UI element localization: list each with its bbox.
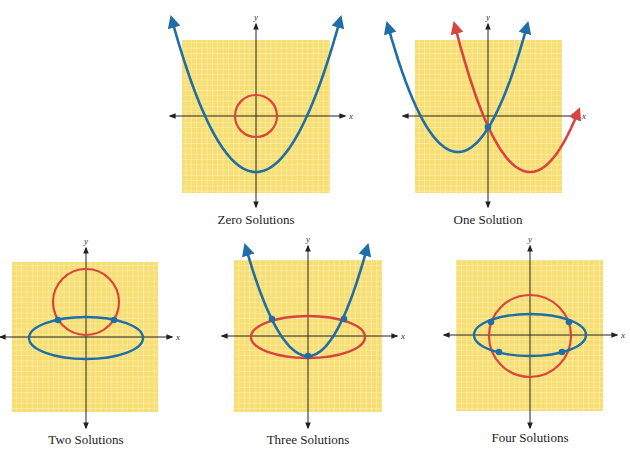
intersection-point bbox=[488, 319, 495, 326]
x-axis-label: x bbox=[581, 111, 586, 121]
intersection-point bbox=[566, 319, 573, 326]
x-axis-label: x bbox=[348, 111, 353, 121]
x-axis-label: x bbox=[400, 331, 405, 341]
panel-four-solutions: xy bbox=[444, 234, 625, 428]
intersection-point bbox=[496, 349, 503, 356]
y-axis-label: y bbox=[305, 234, 310, 244]
caption-one-solution: One Solution bbox=[454, 212, 523, 228]
panel-zero-solutions: xy bbox=[170, 12, 353, 207]
intersection-point bbox=[269, 316, 276, 323]
caption-three-solutions: Three Solutions bbox=[267, 432, 350, 448]
y-axis-label: y bbox=[485, 12, 490, 22]
y-axis-label: y bbox=[527, 234, 532, 244]
caption-four-solutions: Four Solutions bbox=[492, 430, 569, 446]
intersection-point bbox=[305, 353, 312, 360]
y-axis-label: y bbox=[83, 236, 88, 246]
panel-two-solutions: xy bbox=[0, 236, 180, 428]
intersection-point bbox=[341, 316, 348, 323]
x-axis-label: x bbox=[620, 330, 625, 340]
intersection-point bbox=[55, 317, 62, 324]
caption-zero-solutions: Zero Solutions bbox=[218, 212, 295, 228]
intersection-point bbox=[111, 317, 118, 324]
caption-two-solutions: Two Solutions bbox=[48, 432, 123, 448]
y-axis-label: y bbox=[253, 12, 258, 22]
x-axis-label: x bbox=[175, 332, 180, 342]
panel-three-solutions: xy bbox=[222, 234, 405, 428]
figure-canvas: xyxyxyxyxy bbox=[0, 0, 630, 456]
systems-of-equations-figure: xyxyxyxyxy Zero Solutions One Solution T… bbox=[0, 0, 630, 456]
intersection-point bbox=[559, 349, 566, 356]
intersection-point bbox=[485, 124, 492, 131]
panel-one-solutions: xy bbox=[388, 12, 586, 207]
